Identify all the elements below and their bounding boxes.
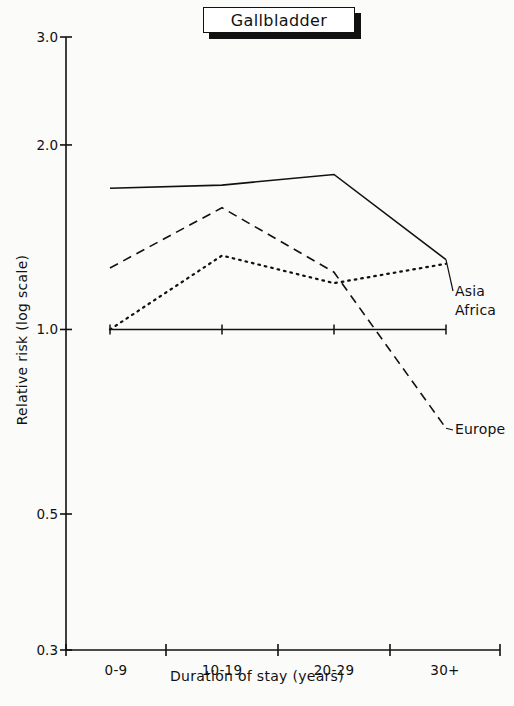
leader-asia bbox=[446, 260, 453, 291]
chart-title: Gallbladder bbox=[231, 11, 328, 30]
axes-group bbox=[60, 37, 500, 656]
series-label-europe: Europe bbox=[455, 421, 505, 437]
label-leader-lines bbox=[446, 260, 453, 430]
leader-europe bbox=[446, 428, 453, 430]
chart-figure: Gallbladder Relative risk (log scale) Du… bbox=[0, 0, 514, 706]
reference-line-group bbox=[110, 324, 446, 334]
chart-title-box: Gallbladder bbox=[203, 7, 355, 33]
series-line-africa bbox=[110, 256, 446, 330]
series-line-asia bbox=[110, 174, 446, 259]
series-label-asia: Asia bbox=[455, 283, 485, 299]
series-label-africa: Africa bbox=[455, 302, 496, 318]
data-series-group bbox=[110, 174, 446, 428]
series-line-europe bbox=[110, 208, 446, 429]
plot-area bbox=[0, 0, 514, 706]
